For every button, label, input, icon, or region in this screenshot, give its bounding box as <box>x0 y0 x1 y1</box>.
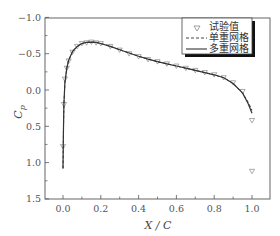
y-axis-title-sub: p <box>18 105 27 110</box>
x-tick-label: 0.4 <box>131 203 146 214</box>
x-axis-title: X / C <box>144 219 173 232</box>
x-tick-label: 0.0 <box>55 203 70 214</box>
triangle-down-marker <box>249 169 254 173</box>
x-tick-label: 0.6 <box>169 203 184 214</box>
plot-series <box>60 40 254 174</box>
single-grid-line <box>63 42 252 168</box>
legend-label-multi-grid: 多重网格 <box>209 42 249 54</box>
y-tick-label: 0.5 <box>26 121 41 132</box>
y-tick-label: 1.5 <box>26 193 41 204</box>
y-tick-label: −0.5 <box>18 48 41 59</box>
cp-chart: −1.0−0.50.00.51.01.5 0.00.20.40.60.81.0 … <box>0 0 280 236</box>
multi-grid-line <box>63 42 252 168</box>
x-tick-label: 0.2 <box>93 203 108 214</box>
x-axis: 0.00.20.40.60.81.0 <box>55 195 259 214</box>
legend-label-single-grid: 单重网格 <box>209 31 249 43</box>
x-tick-label: 1.0 <box>244 203 259 214</box>
legend-label-experiment: 试验值 <box>209 20 239 32</box>
y-axis-title: Cp <box>12 105 27 119</box>
legend: 试验值 单重网格 多重网格 <box>182 18 255 57</box>
y-tick-label: 1.0 <box>26 157 41 168</box>
y-tick-label: 0.0 <box>26 85 41 96</box>
y-tick-label: −1.0 <box>18 12 41 23</box>
triangle-down-marker <box>249 118 254 122</box>
x-tick-label: 0.8 <box>207 203 222 214</box>
